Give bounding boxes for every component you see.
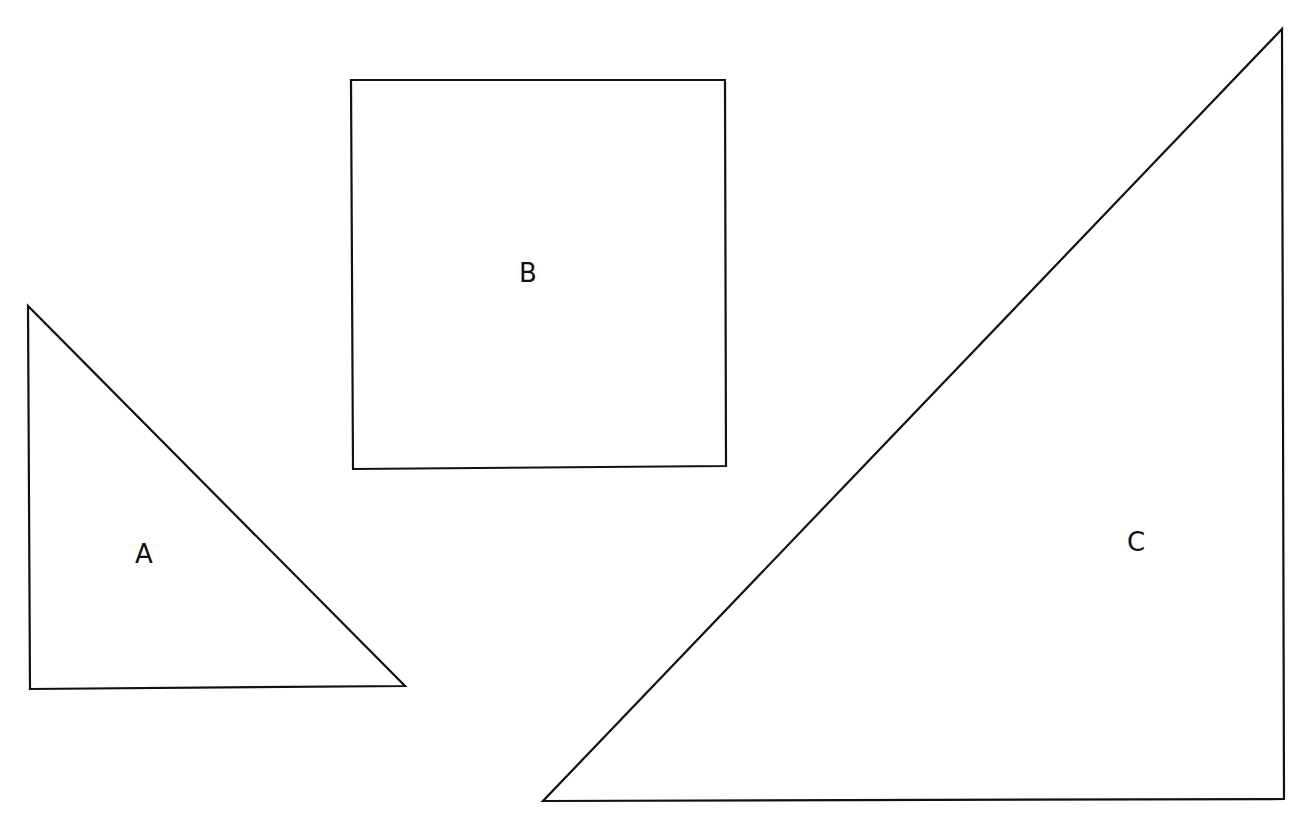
- triangle-a-outline: [28, 306, 405, 689]
- triangle-c-outline: [543, 29, 1284, 801]
- shapes-diagram: A B C: [0, 0, 1303, 826]
- triangle-a-label: A: [135, 539, 153, 569]
- square-b-outline: [351, 80, 726, 469]
- triangle-c-label: C: [1127, 527, 1145, 557]
- square-b: B: [351, 80, 726, 469]
- triangle-a: A: [28, 306, 405, 689]
- triangle-c: C: [543, 29, 1284, 801]
- square-b-label: B: [519, 258, 537, 288]
